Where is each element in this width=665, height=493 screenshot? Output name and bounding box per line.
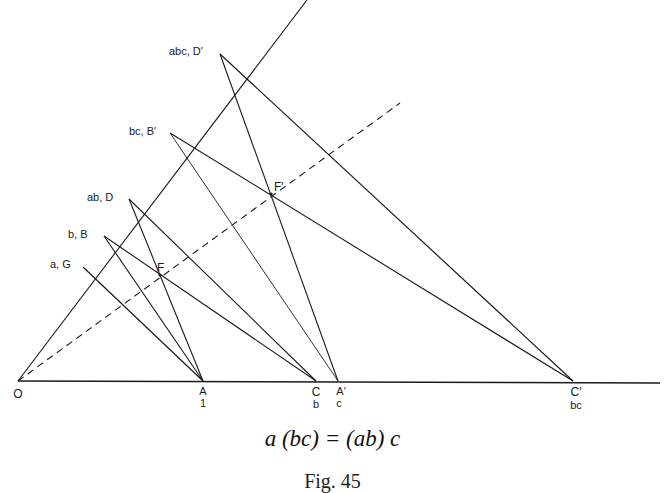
baseline-axis (18, 381, 660, 383)
label-C: C (312, 386, 321, 398)
label-F-prime: F′ (274, 181, 284, 193)
label-C-value: b (313, 399, 319, 410)
segment-Dp-Ap (220, 54, 338, 381)
segment-B-C (104, 236, 316, 381)
label-G: a, G (50, 259, 71, 270)
label-C-prime-value: bc (570, 400, 582, 411)
segment-G-A (83, 267, 203, 381)
label-O: O (13, 388, 22, 400)
label-B: b, B (68, 229, 88, 240)
label-A-prime-value: c (336, 398, 342, 409)
figure-caption: Fig. 45 (0, 470, 665, 493)
segment-Dp-Cp (220, 54, 573, 381)
dashed-axis (18, 103, 400, 381)
label-A-prime: A′ (336, 386, 345, 397)
label-C-prime: C′ (571, 386, 582, 398)
label-B-prime: bc, B′ (129, 126, 156, 137)
label-A: A (199, 386, 206, 397)
label-A-value: 1 (200, 398, 206, 409)
label-D-prime: abc, D′ (169, 46, 203, 57)
label-F: F (157, 262, 164, 274)
equation-associativity: a (bc) = (ab) c (0, 426, 665, 452)
label-D: ab, D (87, 192, 113, 203)
segment-D-A (129, 199, 203, 381)
segment-Bp-Ap (170, 133, 338, 381)
point-Fp-dot (269, 192, 272, 195)
segment-Bp-Cp (170, 133, 573, 381)
segment-D-C (129, 199, 316, 381)
